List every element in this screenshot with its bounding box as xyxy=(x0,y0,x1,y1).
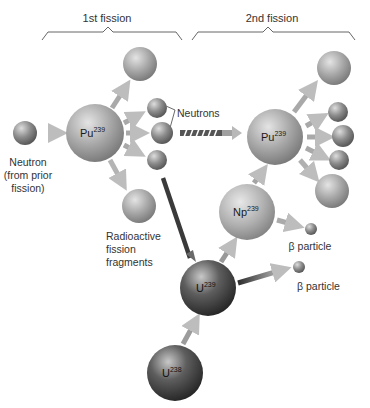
arrow-u238-to-u239 xyxy=(183,322,195,344)
plutonium-breeding-diagram: 1st fission 2nd fission xyxy=(0,0,370,408)
svg-text:fission: fission xyxy=(106,243,136,255)
neutrons-caption: Neutrons xyxy=(177,107,220,119)
arrow-pu2-to-fragment-bottom xyxy=(300,160,313,175)
heading-first-fission: 1st fission xyxy=(42,12,182,40)
neutron-second-3 xyxy=(329,150,349,170)
svg-text:fission): fission) xyxy=(11,182,44,194)
beta-particle-2-caption: β particle xyxy=(297,280,340,292)
neutron-first-3 xyxy=(147,150,167,170)
fragment-first-top xyxy=(123,47,157,81)
svg-text:1st fission: 1st fission xyxy=(83,12,132,24)
arrow-u239-to-np xyxy=(221,245,232,262)
beta-particle-2 xyxy=(293,261,305,273)
fragment-second-bottom xyxy=(315,174,349,208)
u239 xyxy=(180,260,236,316)
arrow-pu2-to-neutron-3 xyxy=(306,148,322,156)
fission-fragments-caption: Radioactive fission fragments xyxy=(106,230,161,268)
arrow-pu1-to-neutron-3 xyxy=(124,145,137,152)
arrow-np-to-beta xyxy=(277,220,295,225)
arrow-pu1-to-fragment-top xyxy=(112,88,125,108)
incoming-neutron-caption: Neutron (from prior fission) xyxy=(4,156,53,194)
brace-second-fission xyxy=(192,27,355,40)
arrow-pu2-to-fragment-top xyxy=(294,88,312,112)
arrow-neutron-to-u239 xyxy=(163,178,190,258)
beta-particle-1-caption: β particle xyxy=(289,240,332,252)
neutron-second-2 xyxy=(332,125,354,147)
arrow-u239-to-beta xyxy=(238,270,282,283)
arrow-np-to-pu2 xyxy=(254,172,262,183)
beta-particle-1 xyxy=(305,223,317,235)
svg-text:fragments: fragments xyxy=(106,256,153,268)
u238 xyxy=(147,345,203,401)
fragment-second-top xyxy=(317,51,351,85)
arrow-neutron-to-pu2 xyxy=(180,126,242,140)
svg-text:2nd fission: 2nd fission xyxy=(246,12,299,24)
svg-text:Radioactive: Radioactive xyxy=(106,230,161,242)
arrow-pu2-to-neutron-1 xyxy=(306,118,320,126)
brace-first-fission xyxy=(42,27,182,40)
incoming-neutron xyxy=(13,121,37,145)
arrow-pu1-to-fragment-bottom xyxy=(110,160,122,182)
pu239-first xyxy=(66,104,124,162)
arrow-pu1-to-neutron-1 xyxy=(124,116,137,123)
neutron-first-2 xyxy=(151,122,173,144)
fragment-first-bottom xyxy=(122,189,156,223)
pu239-second xyxy=(247,109,303,165)
neutron-first-1 xyxy=(147,98,167,118)
svg-text:(from prior: (from prior xyxy=(4,169,53,181)
heading-second-fission: 2nd fission xyxy=(192,12,355,40)
svg-text:Neutron: Neutron xyxy=(9,156,47,168)
neutron-second-1 xyxy=(328,102,348,122)
